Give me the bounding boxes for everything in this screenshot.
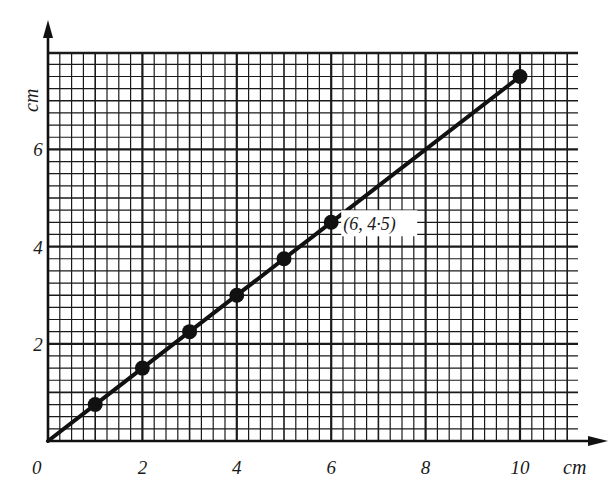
point-annotation: (6, 4·5) <box>343 214 396 235</box>
data-point-marker <box>182 324 197 339</box>
y-axis-arrow-icon <box>43 20 53 38</box>
data-point-marker <box>135 361 150 376</box>
y-tick-label: 6 <box>33 139 43 160</box>
data-point-marker <box>513 69 528 84</box>
y-tick-label: 2 <box>33 334 43 355</box>
y-tick-labels: 246 <box>33 139 43 354</box>
data-point-marker <box>324 215 339 230</box>
data-point-marker <box>229 288 244 303</box>
line-chart: 0 cm cm 246810 246 (6, 4·5) <box>0 0 614 501</box>
x-tick-labels: 246810 <box>138 457 530 478</box>
annotations: (6, 4·5) <box>341 210 417 236</box>
x-tick-label: 8 <box>421 457 431 478</box>
axes <box>43 20 608 446</box>
x-tick-label: 4 <box>232 457 242 478</box>
y-tick-label: 4 <box>33 237 43 258</box>
origin-label: 0 <box>32 457 42 478</box>
data-point-marker <box>277 251 292 266</box>
x-tick-label: 2 <box>138 457 148 478</box>
x-tick-label: 6 <box>326 457 336 478</box>
data-point-marker <box>88 397 103 412</box>
grid-lines <box>48 53 578 441</box>
x-tick-label: 10 <box>511 457 531 478</box>
x-axis-arrow-icon <box>588 436 608 446</box>
x-axis-unit-label: cm <box>563 456 586 478</box>
y-axis-unit-label: cm <box>20 89 42 112</box>
